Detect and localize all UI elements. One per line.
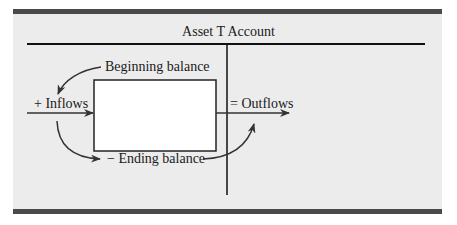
- outflows-label: = Outflows: [230, 96, 294, 112]
- beginning-balance-label: Beginning balance: [105, 59, 210, 75]
- t-account-graphic: [0, 0, 457, 225]
- ending-balance-label: − Ending balance: [107, 151, 205, 167]
- balance-box: [94, 80, 216, 151]
- inflows-label: + Inflows: [34, 96, 88, 112]
